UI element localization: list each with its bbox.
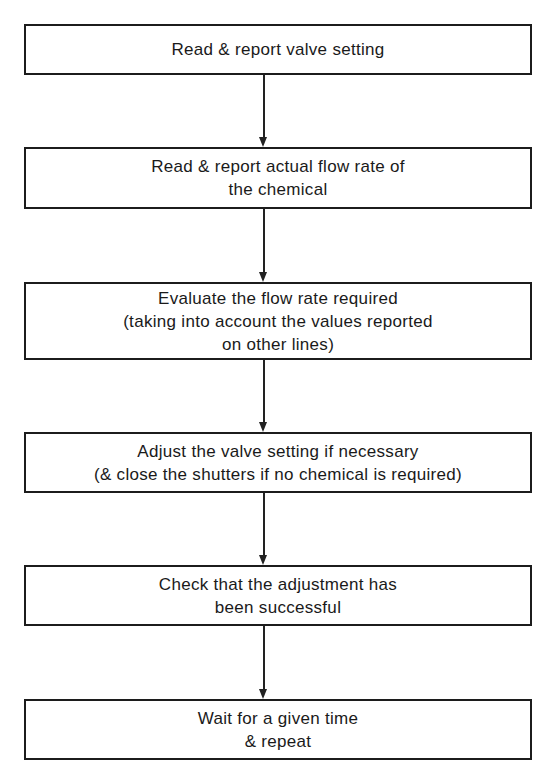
step-label: Wait for a given time & repeat bbox=[198, 707, 359, 753]
arrow-line bbox=[263, 75, 265, 139]
arrow-step1-to-step2 bbox=[263, 75, 265, 147]
arrow-line bbox=[263, 626, 265, 691]
arrow-down-icon bbox=[259, 689, 267, 699]
arrow-step5-to-step6 bbox=[263, 626, 265, 699]
step-label: Read & report valve setting bbox=[171, 38, 384, 61]
arrow-down-icon bbox=[259, 137, 267, 147]
arrow-step4-to-step5 bbox=[263, 493, 265, 565]
step-label: Check that the adjustment has been succe… bbox=[159, 573, 397, 619]
step-adjust-valve: Adjust the valve setting if necessary (&… bbox=[24, 432, 532, 493]
arrow-down-icon bbox=[259, 555, 267, 565]
arrow-down-icon bbox=[259, 272, 267, 282]
arrow-step3-to-step4 bbox=[263, 360, 265, 432]
step-read-flow-rate: Read & report actual flow rate of the ch… bbox=[24, 147, 532, 209]
arrow-step2-to-step3 bbox=[263, 209, 265, 282]
step-wait-and-repeat: Wait for a given time & repeat bbox=[24, 699, 532, 760]
step-label: Read & report actual flow rate of the ch… bbox=[151, 155, 405, 201]
arrow-line bbox=[263, 360, 265, 424]
step-check-adjustment: Check that the adjustment has been succe… bbox=[24, 565, 532, 626]
arrow-line bbox=[263, 493, 265, 557]
arrow-down-icon bbox=[259, 422, 267, 432]
step-evaluate-flow-rate: Evaluate the flow rate required (taking … bbox=[24, 282, 532, 360]
process-flowchart: Read & report valve setting Read & repor… bbox=[0, 0, 556, 773]
step-label: Adjust the valve setting if necessary (&… bbox=[94, 440, 462, 486]
arrow-line bbox=[263, 209, 265, 274]
step-read-valve-setting: Read & report valve setting bbox=[24, 24, 532, 75]
step-label: Evaluate the flow rate required (taking … bbox=[123, 287, 433, 356]
